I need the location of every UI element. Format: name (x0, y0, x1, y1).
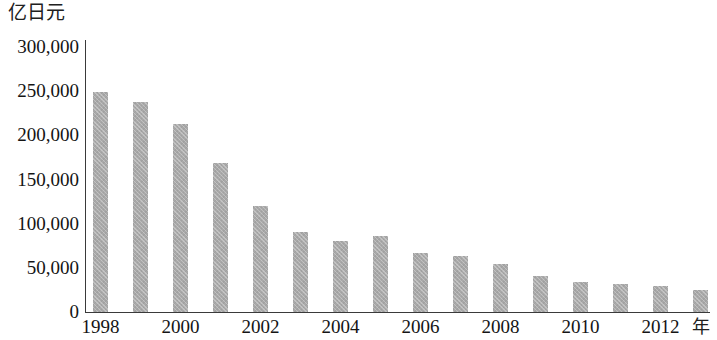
x-axis-unit-label: 年 (692, 316, 710, 338)
bar-chart: 亿日元 300,000250,000200,000150,000100,0005… (0, 0, 717, 340)
x-axis-tick-label: 2000 (151, 316, 211, 338)
bar (93, 92, 108, 312)
bar (653, 286, 668, 312)
y-axis-tick-label: 250,000 (1, 81, 79, 100)
x-axis-tick-label: 2010 (551, 316, 611, 338)
y-axis-tick-label: 0 (1, 302, 79, 321)
x-axis-tick-label: 1998 (71, 316, 131, 338)
bar (173, 124, 188, 312)
x-axis-tick-label: 2012 (631, 316, 691, 338)
bar (333, 241, 348, 312)
x-axis-tick-label: 2002 (231, 316, 291, 338)
bar (133, 102, 148, 312)
bar (413, 253, 428, 312)
bar (493, 264, 508, 312)
x-axis-tick-label: 2004 (311, 316, 371, 338)
y-axis-tick-label: 150,000 (1, 170, 79, 189)
x-axis-tick-label: 2006 (391, 316, 451, 338)
y-axis-tick-labels: 300,000250,000200,000150,000100,00050,00… (0, 0, 79, 340)
bar (453, 256, 468, 312)
plot-area (85, 47, 710, 312)
bar (693, 290, 708, 312)
x-axis-line (85, 312, 710, 313)
y-axis-tick-label: 50,000 (1, 258, 79, 277)
bar (533, 276, 548, 312)
bar (573, 282, 588, 312)
bar (213, 163, 228, 312)
y-axis-tick-label: 300,000 (1, 37, 79, 56)
x-axis-tick-label: 2008 (471, 316, 531, 338)
bar (253, 206, 268, 312)
y-axis-tick-label: 100,000 (1, 214, 79, 233)
y-axis-tick-label: 200,000 (1, 125, 79, 144)
bar (613, 284, 628, 312)
bar (373, 236, 388, 312)
bar (293, 232, 308, 312)
